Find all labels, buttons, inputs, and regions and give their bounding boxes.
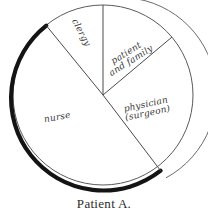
pie-chart-figure: clergy patient and family physician (sur… [0, 0, 208, 217]
pie-chart-svg [0, 0, 208, 217]
figure-caption: Patient A. [0, 196, 208, 212]
